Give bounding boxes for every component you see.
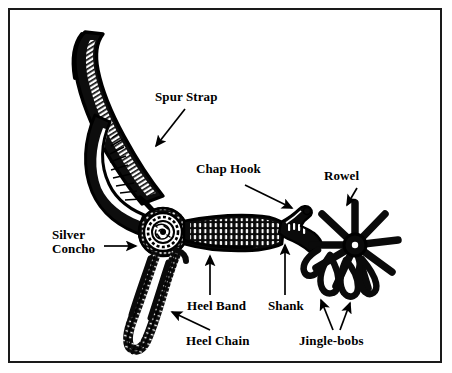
label-jingle-bobs: Jingle-bobs bbox=[299, 334, 364, 348]
label-spur-strap: Spur Strap bbox=[155, 90, 218, 104]
arrow-jingle-bobs-left bbox=[321, 300, 333, 330]
arrow-spur-strap bbox=[156, 109, 185, 146]
heel-chain-drawing bbox=[128, 250, 186, 350]
arrow-chap-hook bbox=[245, 185, 292, 208]
label-heel-band: Heel Band bbox=[187, 299, 246, 313]
label-shank: Shank bbox=[268, 299, 304, 313]
arrow-jingle-bobs-right bbox=[340, 303, 350, 330]
spur-diagram-figure: Spur Strap Chap Hook Rowel Silver Concho… bbox=[0, 0, 452, 373]
label-silver-concho: Silver Concho bbox=[52, 228, 95, 256]
label-rowel: Rowel bbox=[324, 169, 359, 183]
heel-band-drawing bbox=[184, 215, 284, 251]
arrow-heel-chain bbox=[172, 312, 210, 330]
label-chap-hook: Chap Hook bbox=[196, 162, 261, 176]
spur-illustration bbox=[0, 0, 452, 373]
label-heel-chain: Heel Chain bbox=[186, 334, 249, 348]
